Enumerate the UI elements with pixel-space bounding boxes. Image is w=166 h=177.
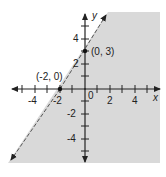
point-neg2-0 [58, 87, 62, 91]
point-label-1: (-2, 0) [36, 71, 63, 82]
x-tick-label: 0 [88, 90, 94, 101]
shaded-region [8, 12, 160, 163]
x-axis-label: x [152, 92, 159, 103]
point-0-3 [83, 49, 87, 53]
y-axis-label: y [91, 10, 98, 21]
y-tick-label: 4 [73, 33, 79, 44]
point-label-2: (0, 3) [91, 46, 114, 57]
y-tick-label: -2 [67, 108, 76, 119]
y-tick-label: 2 [73, 58, 79, 69]
x-tick-label: -2 [53, 95, 62, 106]
inequality-graph: (-2, 0) (0, 3) y x -4 -2 0 2 4 4 2 -2 -4 [0, 0, 166, 177]
x-tick-label: -4 [28, 95, 37, 106]
x-tick-label: 2 [107, 95, 113, 106]
y-tick-label: -4 [67, 133, 76, 144]
x-tick-label: 4 [132, 95, 138, 106]
